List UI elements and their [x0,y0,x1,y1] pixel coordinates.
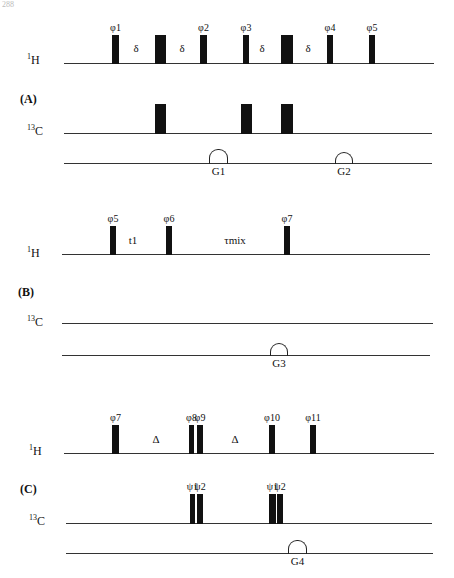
channel-1h-baseline [62,254,430,255]
page-number: 288 [2,0,14,9]
pulse-90 [200,35,207,64]
gradient-label: G3 [272,357,285,369]
phase-label: φ4 [325,23,336,33]
isotope-number: 13 [27,314,35,323]
pulse-90 [369,35,375,64]
delay-label: δ [305,42,310,54]
section-label-c: (C) [20,482,37,497]
delay-label: Δ [231,433,238,445]
delay-label: δ [133,42,138,54]
gradient-label: G4 [291,555,304,567]
phase-label: φ9 [195,413,206,423]
pulse-90 [190,494,195,524]
delay-label: δ [259,42,264,54]
pulse-180 [155,104,166,134]
nucleus-symbol: C [35,124,43,138]
delay-label: δ [179,42,184,54]
pulse-90 [243,35,249,64]
channel-1h-baseline [64,63,434,64]
gradient-baseline [66,553,433,554]
gradient-pulse [209,149,228,164]
pulse-90 [284,226,290,255]
pulse-180 [281,35,293,64]
pulse-90 [197,494,203,524]
pulse-180 [241,104,252,134]
gradient-pulse [270,343,288,356]
gradient-label: G2 [337,165,350,177]
phase-label: ψ2 [194,482,205,492]
pulse-90 [197,425,203,454]
pulse-90 [166,226,172,255]
delay-label: t1 [129,234,138,246]
channel-13c-baseline [66,523,432,524]
channel-13c-label: 13C [29,512,45,527]
phase-label: φ5 [108,214,119,224]
phase-label: φ6 [164,214,175,224]
nucleus-symbol: C [35,315,43,329]
phase-label: φ1 [110,23,121,33]
nucleus-symbol: H [33,444,42,458]
pulse-90 [112,35,119,64]
pulse-180 [155,35,166,64]
phase-label: φ2 [198,23,209,33]
gradient-label: G1 [212,165,225,177]
channel-1h-baseline [64,453,434,454]
gradient-pulse [288,540,307,554]
nucleus-symbol: H [31,53,40,67]
pulse-90 [112,425,119,454]
pulse-90 [277,494,283,524]
isotope-number: 13 [29,513,37,522]
section-label-a: (A) [20,92,37,107]
isotope-number: 13 [27,123,35,132]
channel-1h-label: 1H [27,244,40,259]
phase-label: ψ2 [274,482,285,492]
channel-13c-baseline [62,323,433,324]
nucleus-symbol: H [31,246,40,260]
gradient-baseline [64,163,432,164]
gradient-pulse [335,152,353,164]
phase-label: φ7 [282,214,293,224]
section-label-b: (B) [18,285,34,300]
pulse-90 [269,494,276,524]
phase-label: φ5 [367,23,378,33]
pulse-180 [281,104,293,134]
pulse-90 [310,425,316,454]
delay-label: Δ [152,433,159,445]
channel-13c-label: 13C [27,122,43,137]
phase-label: φ11 [305,413,320,423]
channel-1h-label: 1H [29,442,42,457]
pulse-90 [110,226,116,255]
pulse-90 [269,425,275,454]
pulse-90 [189,425,194,454]
phase-label: φ10 [264,413,280,423]
channel-1h-label: 1H [27,51,40,66]
delay-label: τmix [224,234,246,246]
phase-label: φ7 [110,413,121,423]
phase-label: φ3 [241,23,252,33]
channel-13c-label: 13C [27,313,43,328]
gradient-baseline [62,355,430,356]
nucleus-symbol: C [37,514,45,528]
pulse-90 [327,35,333,64]
